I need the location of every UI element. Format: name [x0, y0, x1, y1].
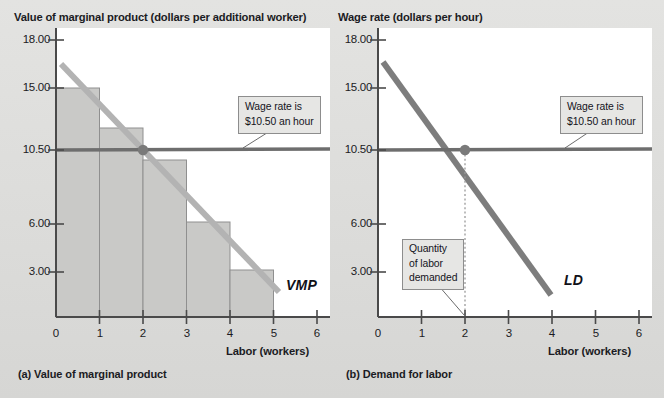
equilibrium-dot-b: [460, 145, 470, 155]
panel-b-caption: (b) Demand for labor: [346, 368, 452, 380]
panel-b-quantity-callout-line3: demanded: [409, 271, 457, 286]
panel-b-quantity-callout-line1: Quantity: [409, 242, 457, 257]
figure-container: Value of marginal product (dollars per a…: [0, 0, 664, 398]
panel-a-wage-callout-line2: $10.50 an hour: [245, 115, 314, 130]
panel-b-quantity-callout-line2: of labor: [409, 257, 457, 272]
panel-a-wage-callout: Wage rate is $10.50 an hour: [238, 96, 321, 134]
wage-rate-line-a: [56, 149, 330, 150]
panel-b-wage-callout-line1: Wage rate is: [567, 100, 636, 115]
panel-value-of-marginal-product: Value of marginal product (dollars per a…: [0, 0, 332, 398]
panel-a-graphics: [0, 0, 332, 398]
panel-b-wage-callout: Wage rate is $10.50 an hour: [560, 96, 643, 134]
panel-a-caption: (a) Value of marginal product: [18, 368, 167, 380]
panel-a-vmp-label: VMP: [286, 277, 317, 293]
panel-b-quantity-callout: Quantity of labor demanded: [402, 239, 464, 290]
panel-a-wage-callout-line1: Wage rate is: [245, 100, 314, 115]
equilibrium-dot-a: [138, 145, 148, 155]
panel-b-ld-label: LD: [564, 272, 583, 288]
panel-b-graphics: [332, 0, 664, 398]
wage-rate-line-b: [378, 149, 652, 150]
panel-demand-for-labor: Wage rate (dollars per hour) 18.00 15.00…: [332, 0, 664, 398]
panel-b-wage-callout-line2: $10.50 an hour: [567, 115, 636, 130]
